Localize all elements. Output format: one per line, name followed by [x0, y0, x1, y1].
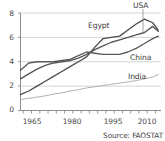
- chart-container: 8 6 4 2 0 1965 1980 1995 2010 USA Egypt …: [0, 0, 165, 141]
- y-tick-label-8: 8: [2, 9, 14, 18]
- y-tick-label-0: 0: [2, 105, 14, 114]
- x-tick-label-1965: 1965: [19, 117, 45, 126]
- series-label-china: China: [130, 53, 151, 62]
- y-tick-label-6: 6: [2, 33, 14, 42]
- y-tick-label-2: 2: [2, 81, 14, 90]
- x-tick-label-1980: 1980: [59, 117, 85, 126]
- series-label-usa: USA: [133, 1, 148, 10]
- x-tick-label-2010: 2010: [134, 117, 160, 126]
- source-note: Source: FAOSTAT: [103, 131, 163, 140]
- series-label-india: India: [128, 72, 146, 81]
- y-tick-label-4: 4: [2, 57, 14, 66]
- series-label-egypt: Egypt: [88, 21, 109, 30]
- x-tick-label-1995: 1995: [100, 117, 126, 126]
